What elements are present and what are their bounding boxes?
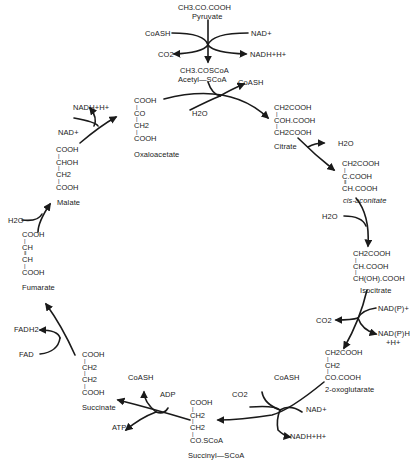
ogdh-coash-label: CoASH: [274, 373, 300, 382]
sdh-fad-label: FAD: [19, 350, 34, 359]
oxaloacetate-compound: COOH | CO | CH2 | COOH: [134, 96, 157, 143]
cis-aconitate-compound: CH2COOH | C.COOH ‖ CH.COOH: [342, 159, 380, 194]
malate-label: Malate: [57, 198, 80, 207]
pdh-coash-label: CoASH: [145, 29, 171, 38]
oxoglutarate-label: 2-oxoglutarate: [325, 385, 374, 394]
cs-coash-label: CoASH: [238, 78, 264, 87]
aconitase-h2o-in-label: H2O: [322, 212, 338, 221]
isocitrate-label: Isocitrate: [360, 286, 391, 295]
cis-aconitate-label: cis-aconitate: [343, 196, 386, 205]
scs-coash-label: CoASH: [128, 373, 154, 382]
idh-nadp-label: NAD(P)+: [378, 304, 409, 313]
succinate-compound: COOH | CH2 | CH2 | COOH: [82, 350, 105, 397]
isocitrate-compound: CH2COOH | CH.COOH | CH(OH).COOH: [353, 249, 405, 284]
formula-row: COH.COOH: [274, 116, 315, 126]
acetyl-scoa-label: Acetyl—SCoA: [178, 75, 227, 84]
formula-row: COOH: [190, 398, 223, 408]
succinyl-scoa-label: Succinyl—SCoA: [188, 451, 244, 460]
succinate-label: Succinate: [82, 403, 116, 412]
scs-atp-label: ATP: [112, 423, 126, 432]
formula-row: CH.COOH: [342, 184, 380, 194]
formula-row: COOH: [134, 134, 157, 144]
pdh-nad-label: NAD+: [251, 29, 272, 38]
aconitase-h2o-out-label: H2O: [338, 139, 354, 148]
succinyl-scoa-compound: COOH | CH2 | CH2 | CO.SCoA: [190, 398, 223, 445]
sdh-fadh2-label: FADH2: [14, 325, 39, 334]
formula-row: CO.COOH: [325, 373, 363, 383]
formula-row: CH2COOH: [353, 249, 405, 259]
ogdh-co2-label: CO2: [232, 390, 248, 399]
formula-row: CH2COOH: [342, 159, 380, 169]
oxoglutarate-compound: CH2COOH | CH2 | CO.COOH: [325, 348, 363, 383]
formula-row: CH2: [190, 411, 223, 421]
formula-row: CH.COOH: [353, 262, 405, 272]
scs-adp-label: ADP: [160, 390, 176, 399]
formula-row: CH2COOH: [274, 103, 315, 113]
mdh-nadh-label: NADH+H+: [73, 103, 109, 112]
pyruvate-label: Pyruvate: [192, 12, 222, 21]
citrate-compound: CH2COOH | COH.COOH | CH2COOH: [274, 103, 315, 138]
mdh-nad-label: NAD+: [58, 128, 79, 137]
formula-row: CH2COOH: [325, 348, 363, 358]
idh-proton-label: +H+: [386, 338, 400, 347]
fumarase-h2o-label: H2O: [8, 216, 24, 225]
formula-row: COOH: [82, 388, 105, 398]
formula-row: CH(OH).COOH: [353, 274, 405, 284]
formula-row: COOH: [22, 268, 45, 278]
fumarate-label: Fumarate: [22, 283, 55, 292]
formula-row: C.COOH: [342, 172, 380, 182]
formula-row: CH2: [190, 423, 223, 433]
cs-h2o-label: H2O: [192, 109, 208, 118]
acetyl-scoa-formula: CH3.COSCoA: [180, 66, 229, 75]
fumarate-compound: COOH | CH ‖ CH | COOH: [22, 230, 45, 277]
formula-row: COOH: [56, 183, 79, 193]
ogdh-nadh-label: NADH+H+: [290, 432, 326, 441]
pdh-nadh-label: NADH+H+: [250, 50, 286, 59]
formula-row: CH2: [325, 361, 363, 371]
formula-row: CH2COOH: [274, 128, 315, 138]
idh-co2-label: CO2: [316, 316, 332, 325]
formula-row: CO.SCoA: [190, 436, 223, 446]
ogdh-nad-label: NAD+: [306, 405, 327, 414]
idh-nadph-label: NAD(P)H: [378, 329, 410, 338]
oxaloacetate-label: Oxaloacetate: [134, 150, 179, 159]
citric-acid-cycle-diagram: CH3.CO.COOH Pyruvate CoASH NAD+ CO2 NADH…: [0, 0, 416, 465]
pdh-co2-label: CO2: [158, 50, 174, 59]
malate-compound: COOH | CHOH | CH2 | COOH: [56, 145, 79, 192]
citrate-label: Citrate: [274, 142, 297, 151]
